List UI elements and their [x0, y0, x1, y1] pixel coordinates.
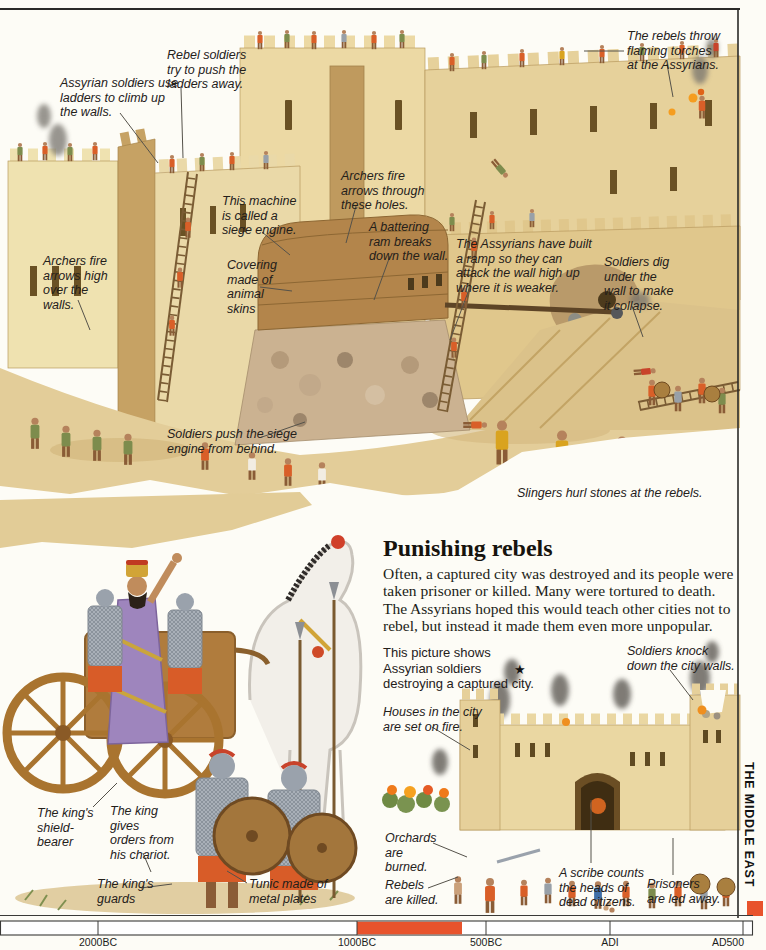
callout-houses-fire: Houses in the city are set on fire. [383, 705, 485, 734]
timeline-tick-500bc: 500BC [470, 936, 502, 948]
callout-dig-under-wall: Soldiers dig under the wall to make it c… [604, 255, 676, 313]
section-color-swatch [747, 901, 763, 916]
callout-king-orders: The king gives orders from his chariot. [110, 804, 178, 862]
burning-orchard [382, 785, 450, 813]
hill-edge [0, 492, 312, 548]
timeline-tick-2000bc: 2000BC [79, 936, 117, 948]
callout-orchards-burned: Orchards are burned. [385, 831, 447, 875]
timeline-tick-1000bc: 1000BC [338, 936, 376, 948]
shield [654, 382, 670, 398]
section-heading: Punishing rebels [383, 535, 553, 561]
timeline [0, 916, 753, 936]
callout-rebels-push-ladders: Rebel soldiers try to push the ladders a… [167, 48, 257, 92]
star-icon: ★ [514, 662, 526, 677]
callout-archers-holes: Archers fire arrows through these holes. [341, 169, 427, 213]
callout-rebels-killed: Rebels are killed. [385, 878, 443, 907]
callout-rebels-torches: The rebels throw flaming torches at the … [627, 29, 725, 73]
section-tab-label: THE MIDDLE EAST [742, 762, 756, 902]
callout-knock-walls: Soldiers knock down the city walls. [627, 644, 739, 673]
callout-kings-guards: The king's guards [97, 877, 155, 906]
callout-archers-high: Archers fire arrows high over the walls. [43, 254, 111, 312]
callout-shield-bearer: The king's shield-bearer [37, 806, 109, 850]
timeline-highlight [357, 922, 462, 935]
timeline-tick-ad500: AD500 [712, 936, 744, 948]
callout-assyrian-ladders: Assyrian soldiers use ladders to climb u… [60, 76, 182, 120]
callout-slingers: Slingers hurl stones at the rebels. [517, 486, 703, 501]
chariot-illustration [0, 492, 361, 914]
callout-scribe-heads: A scribe counts the heads of dead citize… [559, 866, 645, 910]
shield [704, 386, 720, 402]
book-page: Assyrian soldiers use ladders to climb u… [0, 0, 766, 950]
timeline-tick-ad1: ADI [601, 936, 619, 948]
callout-animal-skins: Covering made of animal skins [227, 258, 279, 316]
callout-siege-engine: This machine is called a siege engine. [222, 194, 302, 238]
callout-metal-tunic: Tunic made of metal plates [249, 877, 331, 906]
section-body: Often, a captured city was destroyed and… [383, 565, 735, 635]
callout-push-engine: Soldiers push the siege engine from behi… [167, 427, 301, 456]
callout-prisoners: Prisoners are led away. [647, 877, 721, 906]
callout-battering-ram: A battering ram breaks down the wall. [369, 220, 449, 264]
callout-ramp: The Assyrians have built a ramp so they … [456, 237, 596, 295]
